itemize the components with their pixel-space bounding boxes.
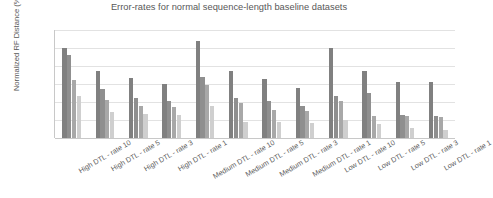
bar[interactable] [143, 114, 147, 138]
bar[interactable] [67, 55, 71, 138]
bar[interactable] [429, 82, 433, 138]
bar[interactable] [367, 93, 371, 138]
bar[interactable] [177, 115, 181, 138]
bars-layer [55, 30, 455, 138]
bar[interactable] [243, 122, 247, 138]
bar[interactable] [96, 71, 100, 138]
bar[interactable] [167, 101, 171, 138]
bar-group [155, 30, 188, 138]
bar[interactable] [72, 80, 76, 138]
bar[interactable] [229, 71, 233, 138]
bar[interactable] [405, 116, 409, 138]
bar[interactable] [239, 103, 243, 138]
plot-area [54, 30, 454, 138]
bar[interactable] [343, 120, 347, 138]
bar-group [288, 30, 321, 138]
bar[interactable] [205, 85, 209, 138]
x-axis-tick-label: Medium DTL - rate 3 [277, 138, 338, 179]
bar[interactable] [362, 71, 366, 138]
bar[interactable] [296, 88, 300, 138]
bar[interactable] [100, 89, 104, 139]
bar[interactable] [196, 41, 200, 138]
x-axis-labels: High DTL - rate 10High DTL - rate 5High … [54, 138, 458, 198]
bar[interactable] [400, 115, 404, 138]
bar[interactable] [200, 77, 204, 138]
bar[interactable] [310, 123, 314, 138]
bar[interactable] [77, 96, 81, 138]
bar-group [55, 30, 88, 138]
bar[interactable] [305, 111, 309, 138]
bar[interactable] [134, 98, 138, 138]
bar[interactable] [262, 79, 266, 138]
bar-group [388, 30, 421, 138]
bar[interactable] [334, 96, 338, 138]
bar[interactable] [339, 101, 343, 138]
bar[interactable] [443, 130, 447, 138]
bar[interactable] [272, 110, 276, 138]
bar[interactable] [129, 78, 133, 138]
bar-group [88, 30, 121, 138]
bar-group [222, 30, 255, 138]
bar[interactable] [377, 124, 381, 138]
bar-group [255, 30, 288, 138]
bar[interactable] [396, 82, 400, 138]
bar-group [122, 30, 155, 138]
bar[interactable] [329, 48, 333, 138]
bar-group [355, 30, 388, 138]
bar[interactable] [110, 112, 114, 138]
bar[interactable] [300, 106, 304, 138]
bar[interactable] [234, 98, 238, 139]
bar[interactable] [434, 116, 438, 139]
bar[interactable] [410, 128, 414, 138]
chart-title: Error-rates for normal sequence-length b… [0, 2, 458, 12]
bar-group [422, 30, 455, 138]
bar[interactable] [62, 48, 66, 138]
bar[interactable] [210, 106, 214, 138]
bar[interactable] [139, 106, 143, 138]
bar[interactable] [372, 116, 376, 138]
bar[interactable] [277, 122, 281, 138]
bar[interactable] [267, 101, 271, 138]
bar[interactable] [439, 117, 443, 138]
bar[interactable] [162, 84, 166, 138]
bar-group [322, 30, 355, 138]
bar[interactable] [105, 100, 109, 138]
bar-group [188, 30, 221, 138]
y-axis-title: Normalized RF Distance (%) [12, 0, 24, 98]
bar[interactable] [172, 107, 176, 138]
